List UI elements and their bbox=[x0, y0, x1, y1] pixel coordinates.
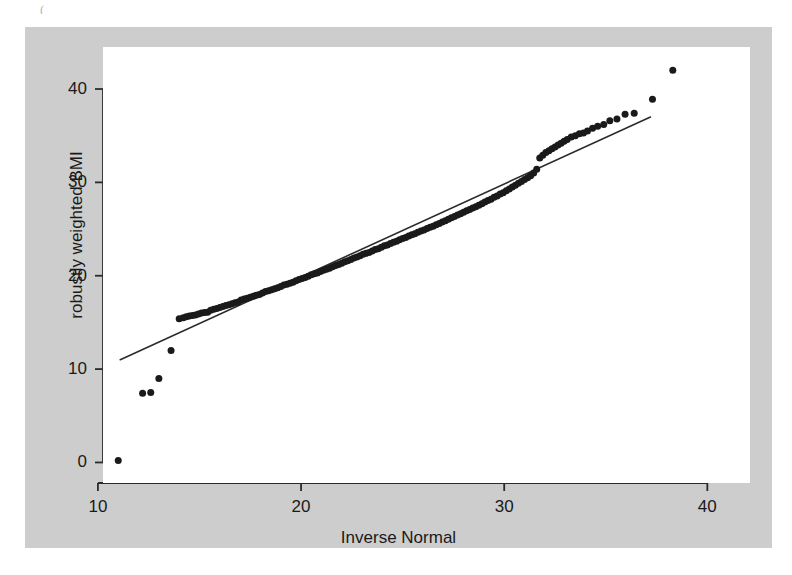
data-layer bbox=[103, 47, 750, 483]
scatter-point bbox=[168, 347, 175, 354]
scatter-point bbox=[631, 110, 638, 117]
scatter-points bbox=[115, 67, 677, 464]
x-tick-label: 10 bbox=[88, 497, 107, 517]
y-axis-label: robustly weighted BMI bbox=[67, 105, 87, 365]
scatter-point bbox=[147, 389, 154, 396]
plot-area bbox=[103, 47, 750, 483]
scatter-point bbox=[139, 390, 146, 397]
qq-plot-figure: ( 010203040 10203040 robustly weighted B… bbox=[0, 0, 792, 575]
reference-line bbox=[120, 117, 650, 360]
x-tick-label: 30 bbox=[495, 497, 514, 517]
scatter-point bbox=[649, 96, 656, 103]
x-tick-label: 40 bbox=[698, 497, 717, 517]
page-artifact-glyph: ( bbox=[40, 2, 54, 14]
figure-panel: 010203040 10203040 robustly weighted BMI… bbox=[25, 27, 772, 548]
scatter-point bbox=[155, 375, 162, 382]
y-tick-label: 0 bbox=[25, 452, 87, 472]
x-axis-label: Inverse Normal bbox=[25, 528, 772, 548]
scatter-point bbox=[622, 111, 629, 118]
x-tick-label: 20 bbox=[292, 497, 311, 517]
scatter-point bbox=[606, 117, 613, 124]
scatter-point bbox=[600, 121, 607, 128]
scatter-point bbox=[669, 67, 676, 74]
y-tick-label: 40 bbox=[25, 79, 87, 99]
scatter-point bbox=[533, 166, 540, 173]
scatter-point bbox=[115, 457, 122, 464]
scatter-point bbox=[613, 115, 620, 122]
scatter-point bbox=[594, 123, 601, 130]
